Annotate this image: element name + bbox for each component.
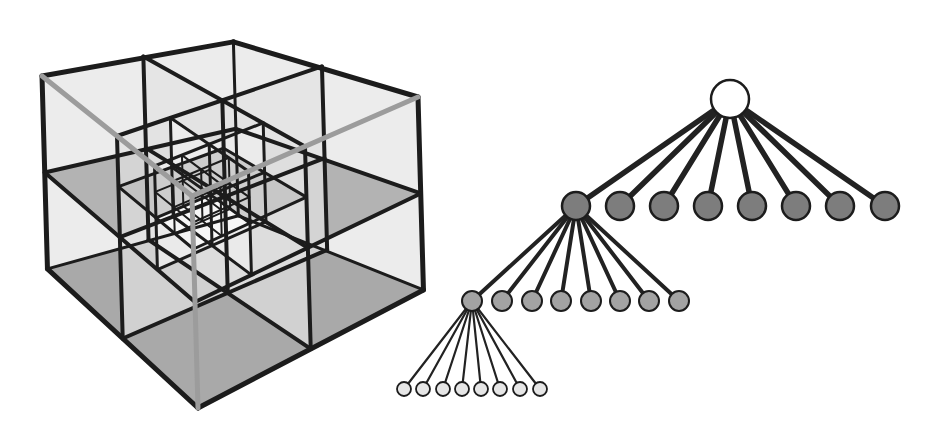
tree-level2-node [610,291,630,311]
tree-level2-node [581,291,601,311]
tree-edge-level2 [472,206,576,301]
tree-level1-node [606,192,634,220]
tree-edge-leaf [404,301,472,389]
tree-leaf-node [455,382,469,396]
tree-leaf-node [533,382,547,396]
octree-figure [0,0,936,432]
tree-leaf-node [513,382,527,396]
tree-level2-node [639,291,659,311]
tree-level2-node [462,291,482,311]
tree-edge-leaf [472,301,540,389]
tree-root-node [711,80,749,118]
octree-tree-diagram [0,0,936,432]
tree-level2-node [492,291,512,311]
tree-nodes [397,80,899,396]
tree-level2-node [522,291,542,311]
tree-level1-node [650,192,678,220]
tree-level2-node [669,291,689,311]
tree-level1-node [562,192,590,220]
tree-level1-node [694,192,722,220]
tree-level1-node [871,192,899,220]
tree-edge-level1 [730,99,885,206]
tree-level2-node [551,291,571,311]
tree-leaf-node [416,382,430,396]
tree-leaf-node [474,382,488,396]
tree-leaf-node [493,382,507,396]
tree-edge-level1 [576,99,730,206]
tree-level1-node [782,192,810,220]
tree-leaf-node [436,382,450,396]
tree-leaf-node [397,382,411,396]
tree-edges [404,99,885,389]
tree-level1-node [826,192,854,220]
tree-level1-node [738,192,766,220]
